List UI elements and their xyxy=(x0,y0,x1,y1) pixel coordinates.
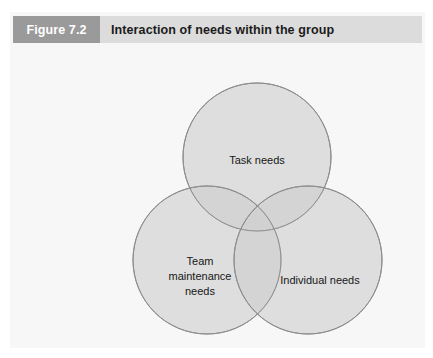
figure-number-label: Figure 7.2 xyxy=(13,16,100,43)
label-task-needs: Task needs xyxy=(229,154,285,166)
figure-title: Interaction of needs within the group xyxy=(111,23,334,37)
figure-title-bar: Interaction of needs within the group xyxy=(100,16,422,43)
label-team-maintenance-needs-line1: Team xyxy=(187,255,214,267)
figure-header: Figure 7.2 Interaction of needs within t… xyxy=(13,16,422,43)
figure-panel: Figure 7.2 Interaction of needs within t… xyxy=(10,12,425,348)
label-team-maintenance-needs-line3: needs xyxy=(185,285,215,297)
label-team-maintenance-needs-line2: maintenance xyxy=(169,270,232,282)
label-individual-needs: Individual needs xyxy=(280,274,360,286)
venn-circle-group xyxy=(133,83,382,334)
venn-diagram-svg: Task needs Team maintenance needs Indivi… xyxy=(10,43,425,348)
circle-individual-needs xyxy=(234,186,382,334)
venn-diagram: Task needs Team maintenance needs Indivi… xyxy=(10,43,425,348)
